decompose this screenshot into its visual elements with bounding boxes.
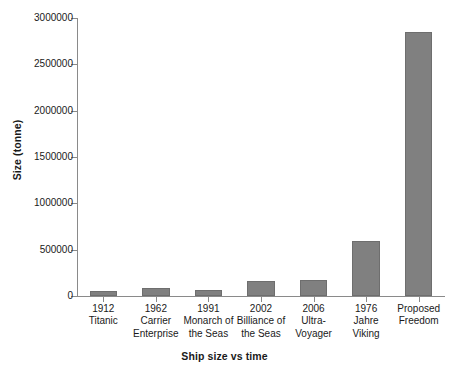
bar [142,288,169,296]
bar-chart-figure: Size (tonne) 050000010000001500000200000… [0,0,449,370]
y-axis-tick-label: 1000000 [34,196,73,209]
x-axis-tick-label-line: Carrier [130,315,183,327]
y-axis-tick-label: 3000000 [34,11,73,24]
x-axis-tick-mark [208,296,209,302]
x-axis-tick-label: ProposedFreedom [392,303,445,328]
bar [195,290,222,296]
y-axis-title-text: Size (tonne) [11,120,23,181]
y-axis-tick-label: 0 [67,289,73,302]
x-axis-tick-label-line: the Seas [182,328,235,340]
x-axis-tick-mark [419,296,420,302]
x-axis-tick-mark [366,296,367,302]
x-axis-tick-label-line: Billiance of [235,315,288,327]
x-axis-tick-label-line: the Seas [235,328,288,340]
x-axis-tick-mark [156,296,157,302]
x-axis-tick-label-line: Jahre [340,315,393,327]
bar [405,32,432,296]
x-axis-tick-label-line: 1991 [182,303,235,315]
x-axis-tick-label: 1962CarrierEnterprise [130,303,183,340]
x-axis-title-text: Ship size vs time [181,350,267,362]
y-axis-tick-label: 2500000 [34,57,73,70]
bar [300,280,327,296]
x-axis-title: Ship size vs time [0,350,449,362]
x-axis-tick-label-line: Enterprise [130,328,183,340]
x-axis-tick-label-line: Voyager [287,328,340,340]
x-axis-tick-label-line: 1962 [130,303,183,315]
x-axis-tick-labels: 1912Titanic1962CarrierEnterprise1991Mona… [77,303,445,349]
x-axis-tick-label-line: 2006 [287,303,340,315]
x-axis-tick-label-line: 1976 [340,303,393,315]
x-axis-tick-label-line: Proposed [392,303,445,315]
x-axis-tick-label-line: Ultra- [287,315,340,327]
bar [352,241,379,296]
plot-area: 0500000100000015000002000000250000030000… [77,18,445,296]
x-axis-tick-label-line: Viking [340,328,393,340]
x-axis-tick-label: 1912Titanic [77,303,130,328]
x-axis-tick-label: 2002Billiance ofthe Seas [235,303,288,340]
y-axis-tick-label: 1500000 [34,150,73,163]
bar [247,281,274,296]
x-axis-tick-label: 1976JahreViking [340,303,393,340]
x-axis-tick-mark [314,296,315,302]
x-axis-tick-label-line: 1912 [77,303,130,315]
x-axis-tick-label: 2006Ultra-Voyager [287,303,340,340]
x-axis-tick-mark [261,296,262,302]
x-axis-tick-label-line: 2002 [235,303,288,315]
y-axis-title: Size (tonne) [8,0,26,300]
x-axis-tick-label-line: Titanic [77,315,130,327]
y-axis-tick-label: 2000000 [34,104,73,117]
x-axis-tick-label-line: Freedom [392,315,445,327]
y-axis-tick-label: 500000 [40,243,73,256]
x-axis-tick-label-line: Monarch of [182,315,235,327]
x-axis-tick-label: 1991Monarch ofthe Seas [182,303,235,340]
y-axis-spine [77,18,78,296]
bar [90,291,117,296]
x-axis-tick-mark [103,296,104,302]
